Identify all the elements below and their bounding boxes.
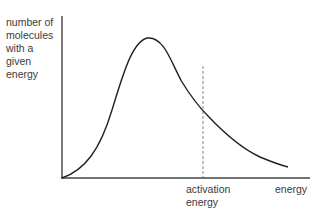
activation-energy-label-line: activation bbox=[186, 183, 230, 196]
activation-energy-label: activation energy bbox=[186, 183, 230, 209]
chart-plot bbox=[0, 0, 327, 209]
x-axis-label: energy bbox=[275, 183, 307, 196]
activation-energy-label-line: energy bbox=[186, 196, 230, 209]
distribution-curve bbox=[62, 38, 288, 178]
